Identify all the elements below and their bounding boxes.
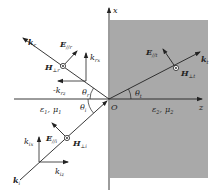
circled-dot-icon bbox=[60, 63, 65, 68]
x-axis-label: x bbox=[113, 6, 118, 15]
medium1-label: ε1,μ1 bbox=[40, 105, 61, 115]
kt-label: kt bbox=[201, 54, 210, 65]
ki-label: ki bbox=[13, 175, 21, 186]
em-wave-interface-diagram: x z O ki kix kiz E//i H⊥i kr krx -krz E/… bbox=[0, 0, 217, 195]
circled-dot-icon bbox=[64, 135, 69, 140]
Er-label: E//r bbox=[59, 39, 72, 50]
circled-dot-icon bbox=[173, 65, 178, 70]
theta-r-arc bbox=[90, 88, 94, 99]
minus-krz-label: -krz bbox=[53, 86, 66, 96]
Ei-label: E//i bbox=[45, 133, 57, 144]
theta-i-arc bbox=[88, 99, 94, 113]
kr-label: kr bbox=[28, 37, 37, 48]
krx-label: krx bbox=[90, 53, 100, 63]
kiz-label: kiz bbox=[55, 167, 64, 177]
origin-label: O bbox=[111, 103, 118, 112]
Hi-label: H⊥i bbox=[72, 138, 87, 149]
z-axis-label: z bbox=[198, 103, 204, 112]
kix-label: kix bbox=[24, 137, 33, 147]
Ei-arrow bbox=[52, 123, 67, 138]
theta-r-label: θr bbox=[82, 88, 90, 98]
Hr-label: H⊥r bbox=[44, 62, 60, 73]
theta-i-label: θi bbox=[80, 103, 87, 113]
Er-arrow bbox=[63, 51, 77, 66]
